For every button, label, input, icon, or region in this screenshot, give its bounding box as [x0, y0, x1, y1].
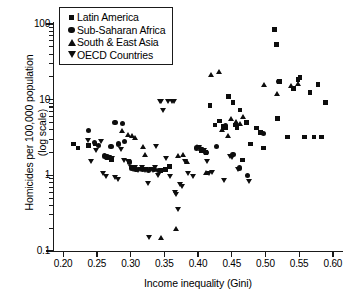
data-point: [171, 99, 177, 104]
data-point: [88, 159, 94, 164]
legend-item-label: South & East Asia: [77, 37, 159, 48]
series-group: [0, 0, 352, 299]
data-point: [235, 167, 241, 172]
data-point: [221, 178, 227, 183]
data-point: [201, 148, 207, 153]
data-point: [103, 174, 109, 179]
data-point: [209, 170, 215, 175]
legend-item: South & East Asia: [66, 36, 165, 49]
data-point: [152, 165, 158, 170]
plot-area: [0, 0, 352, 299]
data-point: [125, 159, 131, 164]
data-point: [204, 159, 210, 164]
data-point: [146, 235, 152, 240]
scatter-chart: 1001010.1 0.200.250.300.350.400.450.500.…: [0, 0, 352, 299]
data-point: [93, 148, 99, 153]
data-point: [229, 155, 235, 160]
data-point: [179, 184, 185, 189]
data-point: [98, 139, 104, 144]
chart-legend: Latin AmericaSub-Saharan AfricaSouth & E…: [59, 7, 173, 65]
triangle-up-marker-icon: [66, 39, 77, 46]
data-point: [115, 177, 121, 182]
legend-item: Latin America: [66, 11, 165, 24]
data-point: [190, 174, 196, 179]
triangle-down-marker-icon: [66, 51, 77, 58]
data-point: [155, 173, 161, 178]
data-point: [153, 144, 159, 149]
circle-marker-icon: [66, 27, 77, 34]
data-point: [246, 179, 252, 184]
data-point: [160, 108, 166, 113]
data-point: [109, 156, 115, 161]
legend-item-label: Sub-Saharan Africa: [77, 25, 165, 36]
legend-item: Sub-Saharan Africa: [66, 24, 165, 37]
legend-item-label: Latin America: [77, 12, 139, 23]
data-point: [118, 147, 124, 152]
square-marker-icon: [66, 15, 77, 21]
data-point: [85, 138, 91, 143]
data-point: [175, 207, 181, 212]
legend-item: OECD Countries: [66, 49, 165, 62]
data-point: [145, 181, 151, 186]
data-point: [163, 156, 169, 161]
data-point: [173, 192, 179, 197]
data-point: [167, 174, 173, 179]
legend-item-label: OECD Countries: [77, 50, 153, 61]
data-point: [182, 159, 188, 164]
